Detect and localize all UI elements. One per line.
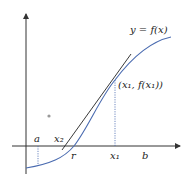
newton-method-diagram: y = f(x) (x₁, f(x₁)) a x₂ r x₁ b [0,0,187,180]
tangent-line [62,54,131,150]
label-a: a [34,133,40,144]
label-x1: x₁ [110,150,120,161]
dot-marker [47,114,50,117]
label-b: b [142,150,148,161]
label-r: r [71,150,77,161]
function-curve [26,37,171,168]
curve-label: y = f(x) [129,24,168,35]
label-x2: x₂ [54,133,64,144]
point-label: (x₁, f(x₁)) [118,79,163,90]
